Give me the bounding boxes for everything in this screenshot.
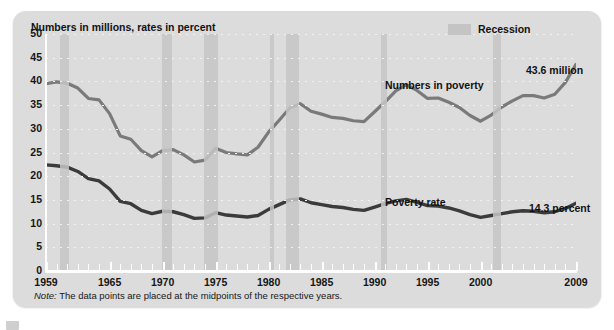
x-tick-1996 — [438, 264, 439, 271]
plot-area — [46, 34, 576, 271]
x-tick-1971 — [173, 264, 174, 271]
x-tick-1962 — [78, 264, 79, 271]
x-tick-1976 — [226, 264, 227, 271]
x-tick-1991 — [385, 264, 386, 271]
x-tick-1977 — [237, 264, 238, 271]
x-tick-2003 — [512, 264, 513, 271]
y-tick-label-10: 10 — [16, 218, 42, 229]
legend-label-recession: Recession — [478, 23, 531, 35]
y-tick-label-15: 15 — [16, 194, 42, 205]
x-tick-1961 — [67, 264, 68, 271]
x-tick-1979 — [258, 264, 259, 271]
x-tick-2008 — [565, 264, 566, 271]
x-tick-1990 — [375, 262, 377, 271]
legend: Recession — [448, 22, 531, 36]
y-tick-label-5: 5 — [16, 241, 42, 252]
gridline-40 — [46, 81, 576, 82]
series-label-numbers-in-poverty: Numbers in poverty — [385, 79, 484, 91]
note-body: The data points are placed at the midpoi… — [57, 290, 343, 301]
y-tick-label-20: 20 — [16, 170, 42, 181]
x-tick-1998 — [459, 264, 460, 271]
gridline-30 — [46, 129, 576, 130]
x-tick-1985 — [322, 262, 324, 271]
gridline-10 — [46, 224, 576, 225]
x-tick-label-1975: 1975 — [204, 276, 227, 288]
x-tick-1975 — [216, 262, 218, 271]
x-tick-1997 — [449, 264, 450, 271]
x-tick-1989 — [364, 264, 365, 271]
x-tick-1982 — [290, 264, 291, 271]
x-tick-label-2009: 2009 — [564, 276, 587, 288]
gridline-35 — [46, 105, 576, 106]
x-tick-2007 — [555, 264, 556, 271]
x-tick-1984 — [311, 264, 312, 271]
x-tick-label-1965: 1965 — [98, 276, 121, 288]
y-axis — [45, 34, 47, 273]
x-tick-1970 — [163, 262, 165, 271]
x-tick-label-1970: 1970 — [151, 276, 174, 288]
x-tick-1993 — [406, 264, 407, 271]
x-tick-1995 — [428, 262, 430, 271]
x-tick-2004 — [523, 264, 524, 271]
gridline-45 — [46, 58, 576, 59]
x-tick-2009 — [576, 262, 578, 271]
y-tick-label-25: 25 — [16, 147, 42, 158]
y-tick-label-40: 40 — [16, 75, 42, 86]
x-tick-1994 — [417, 264, 418, 271]
y-tick-label-30: 30 — [16, 123, 42, 134]
chart-title: Numbers in millions, rates in percent — [31, 21, 215, 33]
y-tick-label-45: 45 — [16, 52, 42, 63]
note-prefix: Note: — [34, 290, 57, 301]
x-tick-2000 — [481, 262, 483, 271]
chart-note: Note: The data points are placed at the … — [34, 290, 342, 301]
x-tick-1987 — [343, 264, 344, 271]
x-tick-1968 — [141, 264, 142, 271]
x-tick-1959 — [46, 262, 48, 271]
series-label-poverty-rate: Poverty rate — [385, 196, 446, 208]
end-value-label-rate: 14.3 percent — [529, 202, 590, 214]
x-tick-2002 — [502, 264, 503, 271]
gridline-15 — [46, 200, 576, 201]
x-tick-1978 — [247, 264, 248, 271]
x-tick-1973 — [194, 264, 195, 271]
gridline-5 — [46, 247, 576, 248]
recession-swatch-icon — [448, 24, 471, 35]
x-tick-label-1990: 1990 — [363, 276, 386, 288]
x-tick-1981 — [279, 264, 280, 271]
corner-marker — [6, 321, 19, 330]
x-tick-label-1995: 1995 — [416, 276, 439, 288]
x-tick-1974 — [205, 264, 206, 271]
x-tick-1960 — [57, 264, 58, 271]
x-tick-1967 — [131, 264, 132, 271]
x-tick-1983 — [300, 264, 301, 271]
x-tick-1964 — [99, 264, 100, 271]
x-tick-1988 — [353, 264, 354, 271]
x-tick-2005 — [534, 264, 535, 271]
y-tick-label-0: 0 — [16, 265, 42, 276]
x-tick-2006 — [544, 264, 545, 271]
gridline-25 — [46, 153, 576, 154]
end-value-label-numbers: 43.6 million — [526, 64, 583, 76]
x-tick-label-2000: 2000 — [469, 276, 492, 288]
x-tick-1999 — [470, 264, 471, 271]
x-tick-1969 — [152, 264, 153, 271]
x-tick-2001 — [491, 264, 492, 271]
x-tick-label-1985: 1985 — [310, 276, 333, 288]
x-tick-label-1980: 1980 — [257, 276, 280, 288]
x-tick-1992 — [396, 264, 397, 271]
x-tick-1963 — [88, 264, 89, 271]
y-tick-label-35: 35 — [16, 99, 42, 110]
x-tick-1965 — [110, 262, 112, 271]
x-tick-1972 — [184, 264, 185, 271]
x-tick-1986 — [332, 264, 333, 271]
x-tick-1980 — [269, 262, 271, 271]
gridline-20 — [46, 176, 576, 177]
x-tick-label-1959: 1959 — [34, 276, 57, 288]
x-tick-1966 — [120, 264, 121, 271]
